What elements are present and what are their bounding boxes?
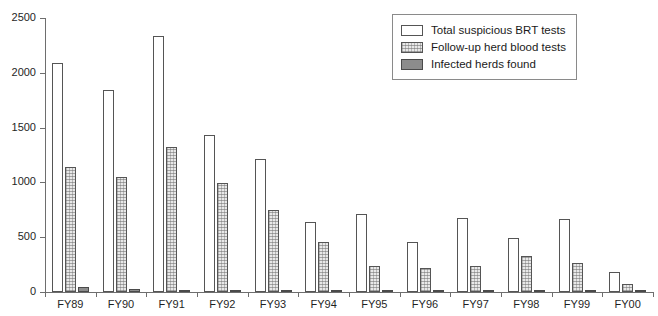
bar: [255, 159, 266, 292]
x-tick-mark: [653, 292, 654, 297]
x-tick-mark: [400, 292, 401, 297]
y-tick-label: 2500: [0, 12, 36, 23]
x-tick-mark: [552, 292, 553, 297]
y-tick-mark: [40, 128, 46, 129]
legend-swatch-icon: [401, 25, 423, 36]
x-tick-mark: [602, 292, 603, 297]
bar: [217, 183, 228, 292]
bar-group-fy00: [609, 18, 646, 292]
bar: [129, 289, 140, 292]
bar: [622, 284, 633, 292]
bar: [318, 242, 329, 292]
x-axis-label-fy92: FY92: [197, 298, 248, 310]
x-tick-mark: [96, 292, 97, 297]
bar: [116, 177, 127, 292]
bar: [559, 219, 570, 292]
bar: [407, 242, 418, 292]
bar-group-fy90: [103, 18, 140, 292]
legend-label: Total suspicious BRT tests: [431, 24, 565, 36]
y-tick-mark: [40, 182, 46, 183]
x-tick-mark: [450, 292, 451, 297]
y-tick-mark: [40, 73, 46, 74]
bar: [521, 256, 532, 292]
bar: [508, 238, 519, 292]
x-axis-label-fy90: FY90: [96, 298, 147, 310]
legend-swatch-icon: [401, 59, 423, 70]
bar: [230, 290, 241, 292]
x-tick-mark: [146, 292, 147, 297]
bar: [534, 290, 545, 292]
y-tick-label: 0: [0, 286, 36, 297]
bar: [179, 290, 190, 292]
x-tick-mark: [45, 292, 46, 297]
legend-label: Infected herds found: [431, 58, 536, 70]
bar-group-fy92: [204, 18, 241, 292]
bar: [103, 90, 114, 292]
bar: [305, 222, 316, 292]
bar: [483, 290, 494, 292]
bar: [635, 290, 646, 292]
bar: [281, 290, 292, 292]
y-axis-line: [45, 18, 46, 292]
x-axis-label-fy91: FY91: [146, 298, 197, 310]
bar: [572, 263, 583, 292]
x-axis-label-fy93: FY93: [248, 298, 299, 310]
bar-group-fy89: [52, 18, 89, 292]
bar: [268, 210, 279, 292]
bar-group-fy91: [153, 18, 190, 292]
bar: [470, 266, 481, 292]
y-tick-label: 2000: [0, 67, 36, 78]
y-tick-label: 1000: [0, 176, 36, 187]
x-tick-mark: [501, 292, 502, 297]
legend-item: Infected herds found: [401, 56, 566, 72]
y-tick-label: 1500: [0, 122, 36, 133]
x-tick-mark: [248, 292, 249, 297]
bar: [331, 290, 342, 292]
bar: [166, 147, 177, 292]
bar: [420, 268, 431, 292]
bar: [382, 290, 393, 292]
x-axis-label-fy89: FY89: [45, 298, 96, 310]
x-tick-mark: [349, 292, 350, 297]
x-axis-label-fy95: FY95: [349, 298, 400, 310]
bar-group-fy93: [255, 18, 292, 292]
legend-item: Total suspicious BRT tests: [401, 22, 566, 38]
bar: [457, 218, 468, 292]
chart-legend: Total suspicious BRT testsFollow-up herd…: [392, 14, 577, 80]
bar: [52, 63, 63, 292]
bar: [356, 214, 367, 292]
bar-group-fy94: [305, 18, 342, 292]
x-axis-label-fy97: FY97: [450, 298, 501, 310]
x-axis-label-fy99: FY99: [552, 298, 603, 310]
bar-chart: 05001000150020002500 FY89FY90FY91FY92FY9…: [0, 0, 658, 316]
y-tick-mark: [40, 18, 46, 19]
legend-label: Follow-up herd blood tests: [431, 41, 566, 53]
bar: [369, 266, 380, 292]
bar: [153, 36, 164, 292]
legend-swatch-icon: [401, 42, 423, 53]
bar: [78, 287, 89, 292]
x-tick-mark: [298, 292, 299, 297]
y-tick-label: 500: [0, 231, 36, 242]
bar: [585, 290, 596, 292]
bar-group-fy95: [356, 18, 393, 292]
bar: [204, 135, 215, 292]
legend-item: Follow-up herd blood tests: [401, 39, 566, 55]
y-tick-mark: [40, 237, 46, 238]
bar: [65, 167, 76, 292]
x-tick-mark: [197, 292, 198, 297]
x-axis-label-fy98: FY98: [501, 298, 552, 310]
x-axis-label-fy00: FY00: [602, 298, 653, 310]
bar: [609, 272, 620, 292]
x-axis-label-fy96: FY96: [400, 298, 451, 310]
bar: [433, 290, 444, 292]
x-axis-label-fy94: FY94: [298, 298, 349, 310]
